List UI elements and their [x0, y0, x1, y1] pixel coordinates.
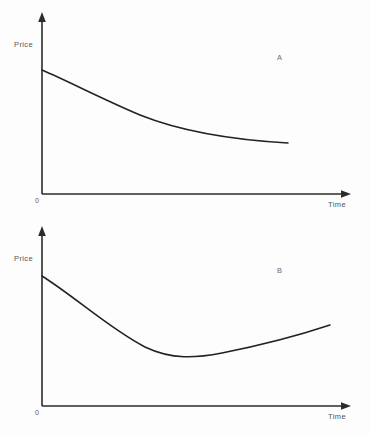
- x-axis-arrow-icon-a: [341, 190, 351, 198]
- x-axis-label-a: Time: [328, 200, 346, 209]
- price-curve-a: [42, 70, 288, 143]
- price-curve-b: [42, 276, 330, 357]
- x-axis-label-b: Time: [328, 412, 346, 421]
- y-axis-label-a: Price: [14, 40, 33, 49]
- origin-label-a: 0: [35, 197, 39, 204]
- y-axis-label-b: Price: [14, 254, 33, 263]
- price-time-figure: Price Time 0 A Price Time 0 B: [0, 0, 370, 435]
- panel-letter-b: B: [277, 266, 282, 275]
- y-axis-arrow-icon-a: [38, 12, 46, 22]
- y-axis-arrow-icon-b: [38, 226, 46, 236]
- x-axis-arrow-icon-b: [341, 402, 351, 410]
- origin-label-b: 0: [35, 409, 39, 416]
- chart-panel-a: Price Time 0 A: [0, 0, 370, 218]
- panel-letter-a: A: [277, 53, 282, 62]
- chart-panel-b: Price Time 0 B: [0, 217, 370, 435]
